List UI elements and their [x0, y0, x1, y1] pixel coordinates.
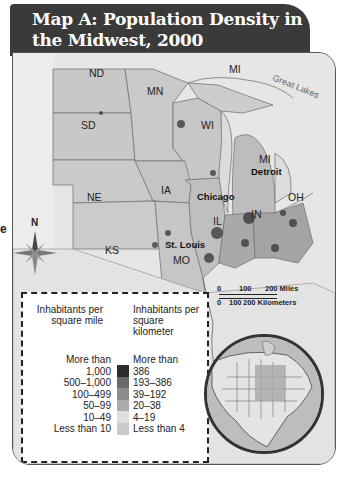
state-label-mo: MO — [173, 254, 190, 266]
legend-km-1: 193–386 — [133, 377, 209, 389]
scale-km-0: 0 — [217, 298, 221, 307]
legend-swatch-2 — [117, 388, 129, 400]
legend-heading-km: Inhabitants per square kilometer — [133, 304, 205, 337]
scale-mile-100: 100 — [239, 284, 252, 293]
legend-km-values: More than386 193–386 39–192 20–38 4–19 L… — [133, 354, 209, 435]
state-label-ia: IA — [161, 184, 171, 196]
legend-heading-mile: Inhabitants per square mile — [33, 304, 103, 326]
compass-north-label: N — [31, 217, 38, 228]
legend-mile-5: Less than 10 — [31, 423, 111, 435]
title-bar: Map A: Population Density in the Midwest… — [10, 4, 310, 56]
legend-mile-3: 50–99 — [31, 400, 111, 412]
map-legend: Inhabitants per square mile Inhabitants … — [21, 292, 209, 463]
scale-mile-200: 200 Miles — [265, 284, 298, 293]
legend-km-4: 4–19 — [133, 412, 209, 424]
locator-globe — [204, 334, 324, 454]
us-locator-map — [207, 337, 321, 451]
city-label-detroit: Detroit — [251, 166, 282, 177]
state-label-il: IL — [213, 215, 222, 227]
state-label-in: IN — [251, 208, 262, 220]
state-label-mn: MN — [147, 85, 163, 97]
legend-mile-values: More than1,000 500–1,000 100–499 50–99 1… — [31, 354, 111, 435]
city-label-st-louis: St. Louis — [165, 239, 205, 250]
state-label-sd: SD — [81, 119, 96, 131]
state-label-ks: KS — [105, 244, 119, 256]
legend-swatch-1 — [117, 377, 129, 389]
title-line-1: Map A: Population Density in — [32, 9, 302, 30]
legend-swatch-0 — [117, 365, 129, 377]
legend-mile-0: More than1,000 — [31, 354, 111, 377]
title-line-2: the Midwest, 2000 — [32, 30, 302, 51]
cropped-text-fragment: e — [0, 222, 7, 236]
state-label-oh: OH — [288, 191, 304, 203]
state-label-mi-lower: MI — [259, 153, 271, 165]
state-label-mi-upper: MI — [229, 63, 241, 75]
legend-km-0: More than386 — [133, 354, 209, 377]
scale-mile-0: 0 — [217, 284, 221, 293]
state-label-wi: WI — [201, 119, 214, 131]
legend-swatch-3 — [117, 400, 129, 412]
city-label-chicago: Chicago — [197, 191, 234, 202]
legend-km-3: 20–38 — [133, 400, 209, 412]
state-label-ne: NE — [87, 191, 102, 203]
legend-mile-4: 10–49 — [31, 412, 111, 424]
scale-km-200: 200 Kilometers — [243, 298, 296, 307]
legend-mile-1: 500–1,000 — [31, 377, 111, 389]
legend-km-5: Less than 4 — [133, 423, 209, 435]
legend-km-2: 39–192 — [133, 389, 209, 401]
scale-bar: 0 100 200 Miles 0 100 200 Kilometers — [217, 284, 327, 310]
legend-mile-2: 100–499 — [31, 389, 111, 401]
map-title: Map A: Population Density in the Midwest… — [32, 9, 302, 51]
legend-swatch-4 — [117, 411, 129, 423]
legend-swatch-5 — [117, 423, 129, 435]
scale-km-100: 100 — [229, 298, 242, 307]
state-label-nd: ND — [89, 67, 104, 79]
midwest-highlight — [255, 365, 285, 401]
map-frame: Great Lakes N ND SD NE KS MN WI MI MI IA… — [12, 52, 336, 465]
